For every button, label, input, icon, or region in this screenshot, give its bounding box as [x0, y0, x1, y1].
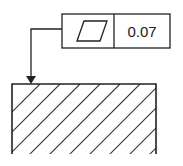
arrowhead-icon — [26, 76, 36, 84]
gdt-diagram: 0.07 — [0, 0, 183, 166]
part-outline — [12, 84, 156, 154]
tolerance-value: 0.07 — [127, 23, 156, 40]
part-section — [0, 84, 183, 164]
leader-line — [26, 29, 62, 84]
feature-control-frame: 0.07 — [62, 14, 170, 48]
